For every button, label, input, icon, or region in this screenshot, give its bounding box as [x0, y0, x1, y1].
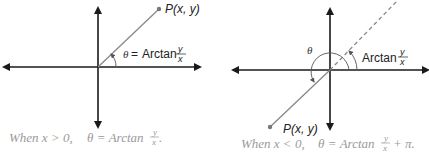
left-point-label: P(x, y) — [165, 2, 200, 16]
right-frac-num: y — [399, 47, 405, 57]
right-caption-den: x — [382, 143, 387, 153]
left-frac-num: y — [177, 44, 183, 54]
left-angle-arc — [111, 54, 116, 67]
right-point-p — [268, 125, 272, 129]
left-caption-theta: θ = Arctan — [87, 130, 144, 145]
left-equals: = — [131, 47, 138, 61]
right-arctan-arc — [349, 51, 357, 70]
right-caption-suffix: + π. — [393, 136, 415, 151]
right-caption-num: y — [383, 133, 388, 143]
left-point-p — [157, 7, 161, 11]
left-arctan-label: Arctan — [142, 47, 177, 61]
right-caption-prefix: When x < 0, — [241, 136, 305, 151]
left-caption-den: x — [151, 137, 156, 147]
left-frac-den: x — [177, 54, 183, 64]
right-ray — [270, 70, 330, 127]
right-theta: θ — [307, 44, 313, 56]
left-theta: θ — [123, 48, 129, 60]
right-caption-theta: θ = Arctan — [318, 136, 375, 151]
left-diagram: P(x, y) θ = Arctan y x When x > 0, θ = A… — [4, 2, 200, 147]
right-diagram: θ Arctan y x P(x, y) When x < 0, θ = Arc… — [233, 0, 428, 153]
left-caption-num: y — [152, 127, 157, 137]
right-arctan-label: Arctan — [362, 51, 397, 65]
right-frac-den: x — [399, 57, 405, 67]
left-caption-suffix: . — [159, 130, 162, 145]
right-point-label: P(x, y) — [283, 122, 318, 136]
diagram-canvas: P(x, y) θ = Arctan y x When x > 0, θ = A… — [0, 0, 429, 158]
left-caption-prefix: When x > 0, — [9, 130, 73, 145]
